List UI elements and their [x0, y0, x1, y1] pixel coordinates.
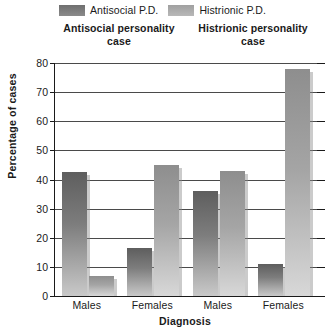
bar — [89, 276, 114, 296]
bar — [258, 264, 283, 296]
bar — [62, 172, 87, 296]
y-axis-right-tick-mark — [317, 92, 325, 93]
x-axis-tick-label: Males — [185, 299, 251, 311]
y-axis-right-tick-mark — [317, 209, 325, 210]
x-axis-tick-label: Females — [120, 299, 186, 311]
x-axis-title: Diagnosis — [54, 315, 316, 327]
chart-area: Percentage of cases 01020304050607080 Ma… — [0, 0, 325, 331]
bar-group — [186, 63, 252, 296]
x-axis-tick-label: Females — [251, 299, 317, 311]
bar-group — [252, 63, 318, 296]
bar-group — [55, 63, 121, 296]
bar — [285, 69, 310, 296]
y-axis-right-tick-mark — [317, 150, 325, 151]
plot-canvas: 01020304050607080 — [54, 63, 317, 297]
y-axis-tick-mark — [50, 296, 55, 297]
bar — [193, 191, 218, 296]
y-axis-right-tick-mark — [317, 63, 325, 64]
x-axis-tick-label: Males — [54, 299, 120, 311]
y-axis-right-tick-mark — [317, 180, 325, 181]
bar — [220, 171, 245, 296]
bar-series-container — [55, 63, 317, 296]
x-axis-tick-labels: MalesFemalesMalesFemales — [54, 299, 316, 311]
bar — [154, 165, 179, 296]
bar-group — [121, 63, 187, 296]
y-axis-right-tick-mark — [317, 238, 325, 239]
y-axis-title: Percentage of cases — [6, 61, 18, 191]
y-axis-right-tick-mark — [317, 296, 325, 297]
y-axis-right-tick-mark — [317, 121, 325, 122]
y-axis-right-tick-mark — [317, 267, 325, 268]
bar — [127, 248, 152, 296]
